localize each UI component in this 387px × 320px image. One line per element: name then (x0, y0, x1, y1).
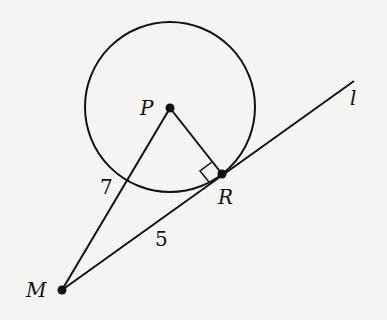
point-p (166, 104, 175, 113)
label-p: P (139, 96, 154, 120)
label-line-l: l (350, 86, 356, 110)
point-r (218, 170, 227, 179)
segment-pr (170, 108, 222, 174)
right-angle-marker (200, 162, 212, 182)
point-m (58, 286, 67, 295)
segment-pm (62, 108, 170, 290)
label-pm-length: 7 (100, 175, 113, 199)
label-r: R (217, 185, 233, 209)
geometry-diagram: P R M l 7 5 (0, 0, 387, 320)
label-mr-length: 5 (155, 227, 168, 251)
label-m: M (25, 278, 47, 302)
